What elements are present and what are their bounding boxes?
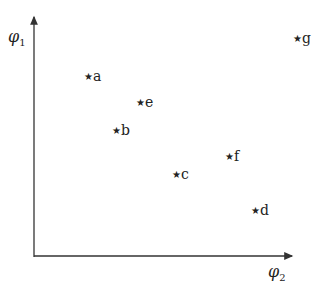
scatter-diagram: φ1 φ2 ★a★e★b★c★f★d★g [0, 0, 328, 290]
point-g: ★g [293, 31, 311, 46]
point-label: d [260, 202, 269, 218]
point-c: ★c [172, 167, 189, 182]
point-label: a [93, 68, 101, 84]
star-icon: ★ [172, 169, 181, 180]
star-icon: ★ [112, 125, 121, 136]
star-icon: ★ [225, 151, 234, 162]
point-label: b [121, 122, 130, 138]
point-b: ★b [112, 123, 130, 138]
star-icon: ★ [293, 33, 302, 44]
point-label: e [145, 94, 153, 110]
point-a: ★a [84, 69, 101, 84]
point-label: c [181, 166, 189, 182]
point-d: ★d [251, 203, 269, 218]
point-f: ★f [225, 149, 239, 164]
axes [0, 0, 328, 290]
point-label: f [234, 148, 239, 164]
star-icon: ★ [251, 205, 260, 216]
y-axis-label: φ1 [8, 27, 26, 48]
x-axis-label: φ2 [268, 262, 286, 283]
point-label: g [302, 30, 311, 46]
point-e: ★e [136, 95, 153, 110]
star-icon: ★ [136, 97, 145, 108]
star-icon: ★ [84, 71, 93, 82]
